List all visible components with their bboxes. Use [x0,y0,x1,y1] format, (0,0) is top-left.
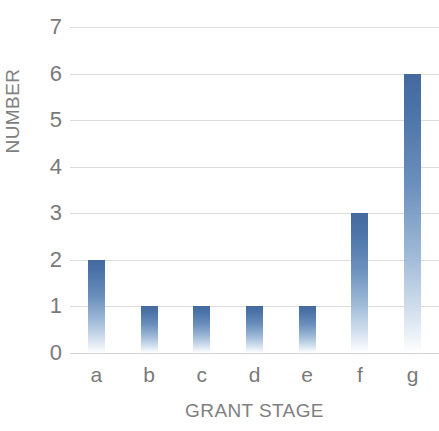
bar-a [88,260,105,353]
x-tick-label: e [285,362,329,388]
x-tick-label: g [391,362,435,388]
y-axis-title: NUMBER [0,56,26,166]
y-tick-label: 4 [28,156,62,178]
y-axis-tick-labels: 01234567 [28,0,62,431]
y-tick-label: 1 [28,295,62,317]
x-tick-label: b [127,362,171,388]
plot-area [70,27,439,353]
x-tick-label: f [338,362,382,388]
gridline-0 [70,353,439,354]
y-tick-label: 6 [28,63,62,85]
bar-chart: NUMBER 01234567 abcdefg GRANT STAGE [0,0,439,431]
bar-f [351,213,368,353]
bar-b [141,306,158,353]
x-axis-tick-labels: abcdefg [70,362,439,392]
bar-series-number [70,27,439,353]
x-tick-label: d [233,362,277,388]
x-axis-title: GRANT STAGE [70,398,439,424]
x-tick-label: a [74,362,118,388]
y-tick-label: 2 [28,249,62,271]
y-tick-label: 3 [28,202,62,224]
bar-e [299,306,316,353]
bar-g [404,74,421,353]
x-tick-label: c [180,362,224,388]
y-tick-label: 7 [28,16,62,38]
bar-c [193,306,210,353]
y-tick-label: 5 [28,109,62,131]
bar-d [246,306,263,353]
y-tick-label: 0 [28,342,62,364]
